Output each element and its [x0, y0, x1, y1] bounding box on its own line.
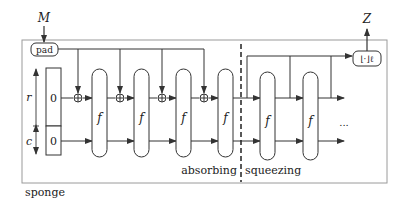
absorbing-label: absorbing	[181, 164, 237, 177]
svg-text:⌊·⌋ℓ: ⌊·⌋ℓ	[360, 54, 373, 64]
f-box-absorb-1: f	[92, 69, 107, 157]
f-box-squeeze-1: f	[260, 72, 275, 160]
rate-label: r	[26, 91, 32, 104]
truncate-box: ⌊·⌋ℓ	[353, 51, 381, 66]
output-z-label: Z	[362, 12, 372, 26]
f-box-squeeze-2: f	[303, 72, 318, 160]
diagram-title: sponge	[25, 186, 65, 199]
xor-node	[116, 94, 124, 102]
xor-node	[158, 94, 166, 102]
svg-text:pad: pad	[36, 45, 53, 55]
f-box-absorb-2: f	[134, 69, 149, 157]
sponge-diagram: M pad 0 0 r c	[0, 0, 408, 209]
pad-box: pad	[31, 43, 58, 56]
state-column: 0 0	[46, 68, 61, 155]
f-box-absorb-3: f	[176, 69, 191, 157]
f-box-absorb-4: f	[218, 69, 233, 157]
xor-node	[200, 94, 208, 102]
svg-text:0: 0	[50, 92, 57, 105]
input-m-label: M	[37, 11, 51, 25]
capacity-label: c	[26, 135, 32, 148]
xor-node	[74, 94, 82, 102]
squeezing-label: squeezing	[245, 164, 301, 177]
ellipsis: ...	[339, 117, 349, 128]
svg-text:0: 0	[50, 135, 57, 148]
